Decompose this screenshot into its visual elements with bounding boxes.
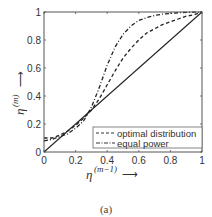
y-tick-label: 0 bbox=[35, 147, 41, 158]
y-tick-label: 1 bbox=[35, 7, 41, 18]
legend: optimal distribution equal power bbox=[93, 127, 202, 149]
y-tick-label: 0.8 bbox=[27, 35, 41, 46]
x-tick-label: 0.6 bbox=[132, 155, 146, 166]
y-axis-label: η (m) ⟶ bbox=[10, 71, 27, 115]
x-tick-label: 0.8 bbox=[163, 155, 177, 166]
y-tick-label: 0.4 bbox=[27, 91, 41, 102]
series-equal-power bbox=[44, 12, 202, 141]
x-tick-label: 0 bbox=[41, 155, 47, 166]
x-label-base: η bbox=[86, 167, 92, 182]
y-label-arrow: ⟶ bbox=[14, 71, 26, 87]
legend-label-equal: equal power bbox=[117, 138, 169, 149]
chart: 00.20.40.60.8100.20.40.60.81 optimal dis… bbox=[0, 0, 212, 217]
x-tick-label: 1 bbox=[199, 155, 205, 166]
series-optimal-distribution bbox=[44, 12, 202, 138]
x-tick-label: 0.2 bbox=[69, 155, 83, 166]
figure-caption: (a) bbox=[100, 203, 113, 216]
y-label-sup: (m) bbox=[10, 95, 20, 108]
y-tick-label: 0.6 bbox=[27, 63, 41, 74]
x-axis-label: η (m−1) ⟶ bbox=[86, 164, 138, 182]
x-label-sup: (m−1) bbox=[94, 164, 117, 174]
y-label-base: η bbox=[12, 109, 27, 115]
y-tick-label: 0.2 bbox=[27, 119, 41, 130]
x-label-arrow: ⟶ bbox=[122, 168, 138, 180]
